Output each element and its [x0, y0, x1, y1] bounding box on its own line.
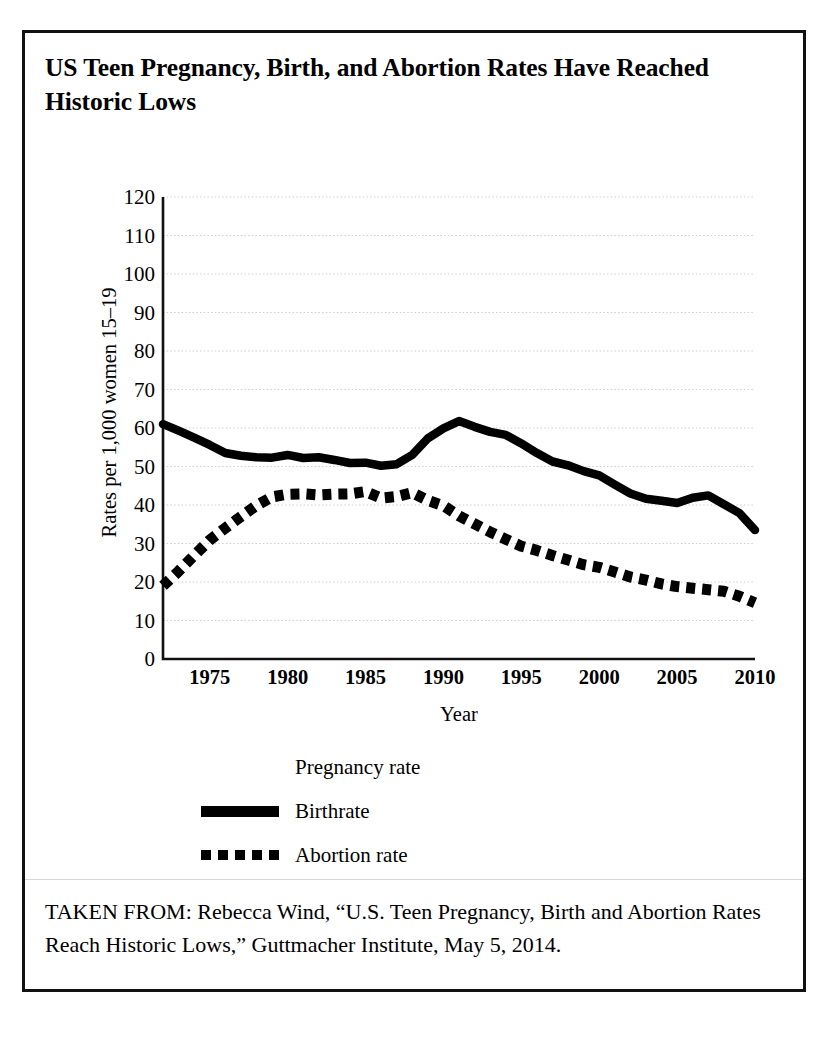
legend-swatch-none: [201, 762, 279, 773]
figure-frame: US Teen Pregnancy, Birth, and Abortion R…: [22, 30, 806, 992]
x-axis-title: Year: [163, 703, 755, 726]
y-tick-label: 60: [109, 418, 155, 439]
x-tick-label: 2005: [642, 667, 712, 688]
legend-item: Birthrate: [201, 789, 661, 833]
x-tick-label: 1975: [175, 667, 245, 688]
y-tick-label: 20: [109, 572, 155, 593]
legend-dash: [235, 850, 245, 860]
legend-item: Abortion rate: [201, 833, 661, 877]
y-tick-label: 80: [109, 341, 155, 362]
y-tick-label: 100: [109, 264, 155, 285]
legend-swatch-solid: [201, 806, 279, 817]
legend-dash: [269, 850, 279, 860]
x-tick-label: 2010: [720, 667, 790, 688]
chart-svg: [163, 197, 755, 659]
x-tick-label: 1990: [408, 667, 478, 688]
legend-label: Birthrate: [295, 801, 370, 822]
y-tick-label: 30: [109, 533, 155, 554]
legend-dash: [252, 850, 262, 860]
y-tick-label: 50: [109, 456, 155, 477]
x-tick-label: 1980: [253, 667, 323, 688]
y-tick-label: 120: [109, 187, 155, 208]
chart-container: Rates per 1,000 women 15–19 010203040506…: [25, 151, 803, 731]
legend-label: Pregnancy rate: [295, 757, 420, 778]
y-tick-label: 10: [109, 610, 155, 631]
y-tick-label: 90: [109, 302, 155, 323]
series-line-abortion-rate: [163, 492, 755, 603]
source-note: TAKEN FROM: Rebecca Wind, “U.S. Teen Pre…: [45, 895, 765, 962]
legend-item: Pregnancy rate: [201, 745, 661, 789]
chart-legend: Pregnancy rateBirthrateAbortion rate: [201, 745, 661, 877]
x-tick-label: 1985: [331, 667, 401, 688]
legend-dash: [201, 850, 211, 860]
legend-label: Abortion rate: [295, 845, 408, 866]
source-divider: [25, 879, 803, 880]
y-tick-label: 40: [109, 495, 155, 516]
y-axis-tick-labels: 0102030405060708090100110120: [103, 197, 155, 659]
figure-title: US Teen Pregnancy, Birth, and Abortion R…: [45, 51, 745, 118]
y-tick-label: 70: [109, 379, 155, 400]
x-axis-tick-labels: 19751980198519901995200020052010: [163, 667, 755, 697]
x-tick-label: 1995: [486, 667, 556, 688]
plot-area: [163, 197, 755, 659]
y-tick-label: 0: [109, 649, 155, 670]
x-tick-label: 2000: [564, 667, 634, 688]
legend-dash: [218, 850, 228, 860]
legend-swatch-dotted: [201, 850, 279, 861]
y-tick-label: 110: [109, 225, 155, 246]
